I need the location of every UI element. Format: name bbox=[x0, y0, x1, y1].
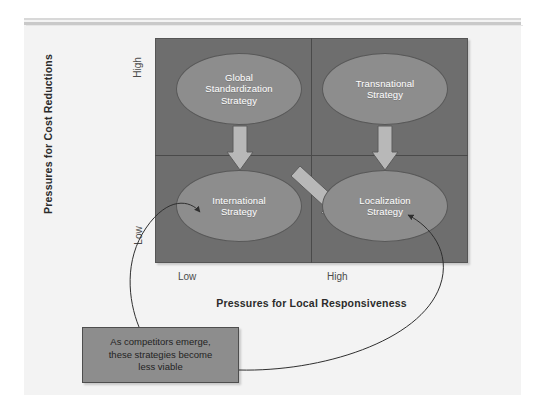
quadrant-label-line2: Standardization bbox=[205, 83, 273, 95]
callout-line1: As competitors emerge, bbox=[103, 336, 219, 349]
quadrant-label-line1: Transnational bbox=[356, 78, 415, 90]
quadrant-international[interactable]: International Strategy bbox=[176, 170, 302, 242]
y-axis-label: Pressures for Cost Reductions bbox=[42, 34, 54, 234]
callout-line2: these strategies become bbox=[103, 349, 219, 362]
matrix-vertical-divider bbox=[311, 38, 312, 263]
quadrant-label-line2: Strategy bbox=[356, 89, 415, 101]
quadrant-label-line1: International bbox=[212, 195, 266, 207]
y-axis-tick-high: High bbox=[132, 57, 143, 78]
x-axis-tick-low: Low bbox=[178, 271, 196, 282]
quadrant-label-line1: Localization bbox=[359, 195, 410, 207]
quadrant-label-line3: Strategy bbox=[205, 95, 273, 107]
quadrant-localization[interactable]: Localization Strategy bbox=[322, 170, 448, 242]
diagram-page: Pressures for Cost Reductions High Low G… bbox=[0, 0, 545, 412]
y-axis-tick-low: Low bbox=[133, 226, 144, 244]
callout-line3: less viable bbox=[103, 361, 219, 374]
quadrant-label-line2: Strategy bbox=[359, 206, 410, 218]
quadrant-label-line1: Global bbox=[205, 72, 273, 84]
quadrant-transnational[interactable]: Transnational Strategy bbox=[322, 53, 448, 125]
x-axis-tick-high: High bbox=[327, 271, 348, 282]
top-rule-outer bbox=[24, 18, 521, 20]
callout-box[interactable]: As competitors emerge, these strategies … bbox=[82, 327, 239, 383]
quadrant-global-standardization[interactable]: Global Standardization Strategy bbox=[176, 53, 302, 125]
quadrant-label-line2: Strategy bbox=[212, 206, 266, 218]
matrix-horizontal-divider bbox=[155, 155, 468, 156]
x-axis-label: Pressures for Local Responsiveness bbox=[155, 297, 468, 309]
top-rule-shadow bbox=[26, 25, 523, 26]
